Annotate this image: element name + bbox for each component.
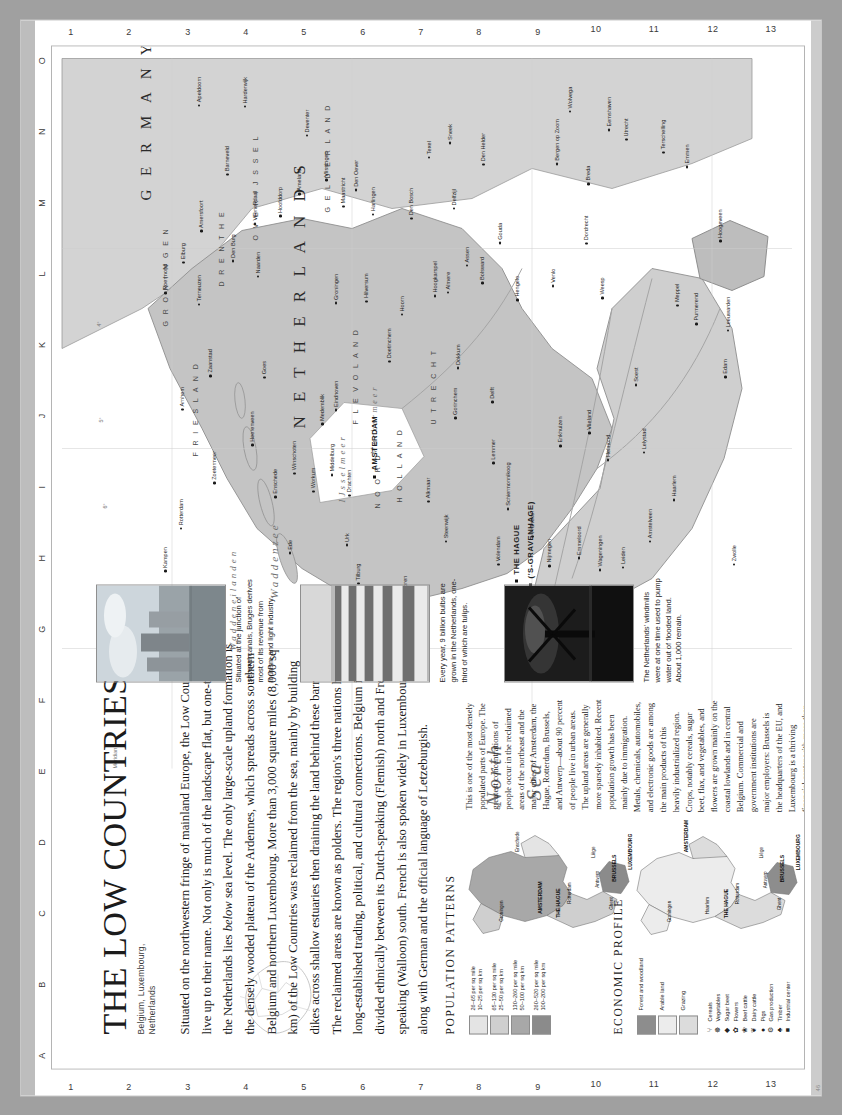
symbol-legend-row: ■Industrial center: [784, 958, 791, 1034]
city-marker-icon: [312, 490, 315, 493]
city-label: Vlissingen: [323, 151, 329, 177]
city-marker-icon: [635, 383, 638, 386]
grid-letter-i: I: [37, 485, 47, 488]
legend-label: Arable land: [658, 982, 666, 1010]
population-legend: 26–65 per sq mile10–25 per sq km65–130 p…: [469, 959, 551, 1034]
city-marker-icon: [466, 264, 469, 267]
city-marker-icon: [335, 301, 338, 304]
subtitle-line-2: Netherlands: [147, 642, 158, 1034]
city-label: Naarden: [255, 251, 261, 272]
legend-row: Arable land: [658, 958, 677, 1034]
city-label: Haarlem: [671, 475, 677, 496]
city-label: Kampen: [162, 547, 168, 568]
city-label: Den Oever: [353, 159, 359, 186]
coordinate-label: 4°: [96, 321, 102, 326]
economic-land-legend: Forest and woodlandArable landGrazing: [637, 958, 698, 1034]
grid-letter-h: H: [37, 554, 47, 561]
city-marker-icon: [492, 461, 495, 464]
capital-label: THE HAGUE: [512, 524, 521, 574]
legend-row: 260–520 per sq mile100–200 per sq km: [532, 959, 551, 1034]
legend-label-metric: 25–50 per sq km: [498, 962, 505, 1010]
capital-label: AMSTERDAM: [370, 415, 379, 470]
city-marker-icon: [556, 162, 559, 165]
symbol-icon: ♣: [776, 1025, 783, 1034]
grid-number-4: 4: [243, 1081, 249, 1091]
city-label: Bolsward: [479, 256, 485, 279]
city-marker-icon: [676, 304, 679, 307]
coordinate-label: 5°: [98, 417, 104, 422]
city-label: Venlo: [550, 268, 556, 282]
symbol-icon: ◆: [723, 1025, 731, 1034]
grid-number-9: 9: [535, 26, 541, 36]
city-label: Drachten: [346, 469, 352, 492]
city-label: Leeuwarden: [725, 296, 731, 327]
city-marker-icon: [601, 296, 604, 299]
city-marker-icon: [724, 375, 727, 378]
grid-number-3: 3: [185, 1081, 191, 1091]
inset-city-label: Rotterdam: [567, 882, 572, 903]
atlas-page: ABCDEFGHIJKLMNO ABCDEFGHIJKLMNO 12345678…: [21, 20, 821, 1095]
legend-swatch: [490, 1015, 509, 1034]
grid-letter-e: E: [37, 767, 47, 774]
legend-swatch: [679, 1015, 698, 1034]
city-marker-icon: [673, 498, 676, 501]
legend-swatch: [637, 1015, 656, 1034]
city-label: Delft: [489, 387, 495, 399]
city-label: Gouda: [497, 222, 503, 239]
legend-row: Forest and woodland: [637, 958, 656, 1034]
legend-label: 65–130 per sq mile25–50 per sq km: [490, 962, 505, 1010]
city-marker-icon: [499, 241, 502, 244]
city-label: Medemblik: [319, 393, 325, 420]
city-label: Zoetermeer: [211, 450, 217, 479]
city-label: Deventer: [304, 109, 310, 132]
city-label: Eemshaven: [606, 96, 612, 126]
grid-letter-j: J: [37, 413, 47, 418]
capital-marker-icon: [515, 579, 518, 582]
legend-label-metric: 50–100 per sq km: [519, 959, 526, 1010]
bruges-canal-photo: [96, 584, 226, 682]
city-label: Gorinchem: [452, 387, 458, 414]
grid-number-6: 6: [360, 1081, 366, 1091]
inset-city-label: AMSTERDAM: [537, 881, 543, 914]
city-label: Maastricht: [340, 177, 346, 203]
grid-number-3: 3: [185, 26, 191, 36]
city-marker-icon: [365, 300, 368, 303]
symbol-icon: ☸: [714, 1025, 722, 1034]
symbol-legend-row: ●Pigs: [759, 958, 766, 1034]
grid-number-8: 8: [477, 26, 483, 36]
city-label: Assen: [464, 246, 470, 262]
city-marker-icon: [388, 360, 391, 363]
city-label: Elburg: [180, 243, 186, 259]
city-marker-icon: [164, 291, 167, 294]
city-label: Groningen: [333, 273, 339, 299]
city-marker-icon: [274, 495, 277, 498]
city-marker-icon: [622, 566, 625, 569]
city-marker-icon: [180, 527, 183, 530]
city-label: Apeldoorn: [196, 76, 202, 102]
city-label: Edam: [722, 359, 728, 374]
city-label: Amersfoort: [198, 200, 204, 227]
inset-city-label: BRUSSELS: [779, 855, 785, 882]
city-marker-icon: [410, 217, 413, 220]
grid-number-5: 5: [302, 1081, 308, 1091]
city-label: Ede: [287, 539, 293, 549]
symbol-legend-row: ⑂Cereals: [706, 958, 713, 1034]
city-label: Weesp: [599, 277, 605, 294]
city-marker-icon: [507, 507, 510, 510]
city-marker-icon: [198, 303, 201, 306]
city-label: Emmeloord: [576, 526, 582, 555]
inset-city-label: Haarlem: [705, 896, 710, 913]
economic-inset-map: GroningenAMSTERDAMHaarlemTHE HAGUERotter…: [631, 826, 805, 944]
city-label: Hoogkarspel: [432, 261, 438, 292]
city-marker-icon: [182, 261, 185, 264]
grid-letter-l: L: [37, 270, 47, 276]
city-label: Hoorn: [399, 296, 405, 311]
city-marker-icon: [552, 284, 555, 287]
economic-symbol-legend: ⑂Cereals☸Vegetables◆Sugar beet✿Flowers❀B…: [706, 958, 791, 1034]
legend-row: 26–65 per sq mile10–25 per sq km: [469, 959, 488, 1034]
city-marker-icon: [599, 568, 602, 571]
city-label: Ameland: [296, 168, 302, 190]
capital-marker-icon: [373, 475, 376, 478]
city-marker-icon: [331, 473, 334, 476]
city-label: Terneuzen: [196, 275, 202, 301]
